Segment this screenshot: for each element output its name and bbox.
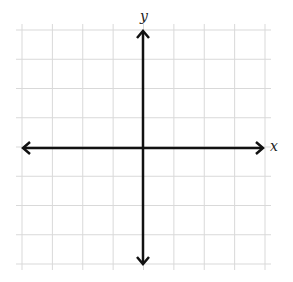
coordinate-plane bbox=[0, 0, 293, 282]
y-axis-label: y bbox=[140, 8, 148, 24]
x-axis-label: x bbox=[270, 138, 278, 154]
